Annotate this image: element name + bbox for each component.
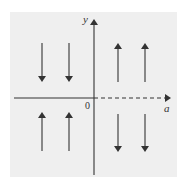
diagram-canvas: y 0 a <box>0 0 184 188</box>
y-axis-label: y <box>82 13 88 25</box>
origin-label: 0 <box>85 100 90 111</box>
x-axis-label: a <box>164 102 170 114</box>
